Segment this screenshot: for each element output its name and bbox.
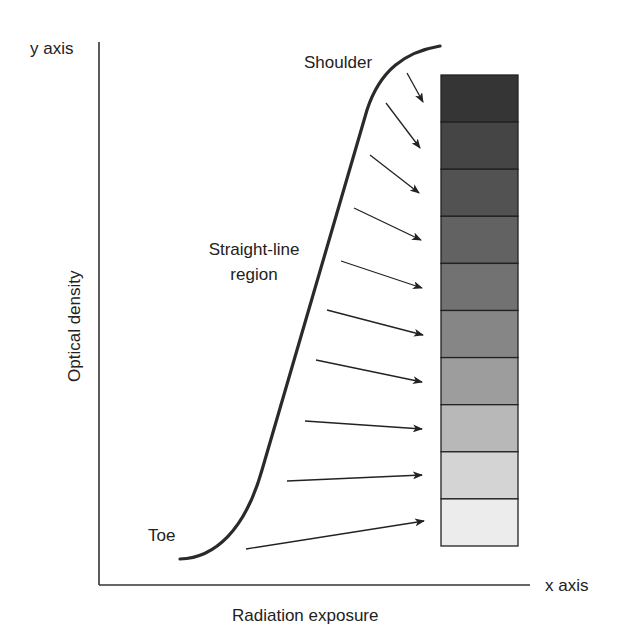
arrow-icon: [354, 208, 421, 240]
arrow-icon: [370, 155, 419, 193]
arrow-icon: [287, 475, 422, 481]
arrow-icon: [246, 521, 424, 549]
density-step: [441, 499, 518, 546]
x-axis-title: Radiation exposure: [232, 607, 378, 624]
density-step: [441, 452, 518, 499]
y-axis-title: Optical density: [66, 271, 83, 383]
region-label: region: [196, 266, 312, 283]
step-wedge: [441, 75, 518, 546]
shoulder-label: Shoulder: [304, 54, 372, 71]
arrow-icon: [305, 421, 422, 429]
density-step: [441, 75, 518, 122]
density-step: [441, 405, 518, 452]
arrow-icon: [316, 360, 422, 382]
arrow-icon: [386, 103, 420, 148]
density-step: [441, 358, 518, 405]
arrow-icon: [407, 73, 423, 102]
density-step: [441, 169, 518, 216]
arrow-icon: [327, 310, 423, 335]
density-step: [441, 263, 518, 310]
characteristic-curve-diagram: [0, 0, 629, 635]
density-step: [441, 122, 518, 169]
x-axis-label: x axis: [545, 577, 588, 594]
y-axis-label: y axis: [30, 40, 73, 57]
straight-line-region-label: Straight-line region: [196, 241, 312, 283]
density-arrows: [246, 73, 424, 549]
density-step: [441, 216, 518, 263]
density-step: [441, 311, 518, 358]
toe-label: Toe: [148, 527, 175, 544]
straight-line-label: Straight-line: [196, 241, 312, 258]
arrow-icon: [341, 261, 422, 288]
